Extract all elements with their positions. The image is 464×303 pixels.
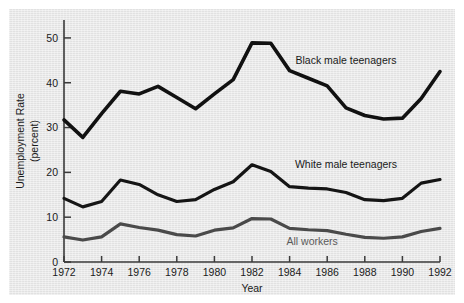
x-tick-label: 1988 bbox=[353, 266, 377, 278]
x-tick-label: 1980 bbox=[203, 266, 227, 278]
y-tick-label: 20 bbox=[46, 166, 58, 178]
figure-canvas: 01020304050 1972197419761978198019821984… bbox=[0, 0, 464, 303]
y-tick-label: 40 bbox=[46, 77, 58, 89]
line-chart: 01020304050 1972197419761978198019821984… bbox=[0, 0, 464, 303]
x-tick-label: 1982 bbox=[240, 266, 264, 278]
y-tick-marks bbox=[64, 38, 71, 262]
series-label: White male teenagers bbox=[295, 158, 397, 170]
x-tick-marks bbox=[64, 256, 440, 262]
x-axis-title: Year bbox=[241, 282, 263, 294]
x-tick-label: 1972 bbox=[52, 266, 76, 278]
series-label: All workers bbox=[286, 235, 337, 247]
series-line bbox=[64, 165, 440, 207]
x-tick-label: 1978 bbox=[165, 266, 189, 278]
x-tick-label: 1990 bbox=[391, 266, 415, 278]
y-tick-label: 10 bbox=[46, 211, 58, 223]
x-tick-label: 1986 bbox=[316, 266, 340, 278]
y-tick-labels: 01020304050 bbox=[46, 32, 58, 268]
x-tick-label: 1976 bbox=[128, 266, 152, 278]
y-axis-title-line2: (percent) bbox=[28, 120, 40, 162]
x-tick-label: 1974 bbox=[90, 266, 114, 278]
x-tick-labels: 1972197419761978198019821984198619881990… bbox=[52, 266, 452, 278]
y-tick-label: 30 bbox=[46, 121, 58, 133]
y-axis-title-line1: Unemployment Rate bbox=[14, 93, 26, 189]
x-tick-label: 1992 bbox=[428, 266, 452, 278]
y-tick-label: 50 bbox=[46, 32, 58, 44]
series-label: Black male teenagers bbox=[296, 54, 397, 66]
series-annotations: Black male teenagersWhite male teenagers… bbox=[286, 54, 397, 247]
data-series-group bbox=[64, 43, 440, 240]
series-line bbox=[64, 219, 440, 241]
x-tick-label: 1984 bbox=[278, 266, 302, 278]
